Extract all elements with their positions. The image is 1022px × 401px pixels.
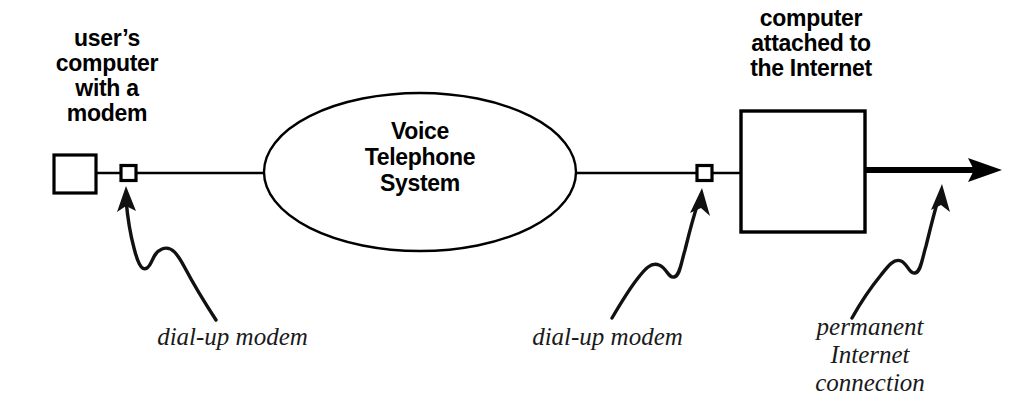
diagram-canvas: user’s computer with a modem Voice Telep… <box>0 0 1022 401</box>
squiggly-arrow-head-middle-icon <box>690 188 710 216</box>
callout-label-left-modem: dial-up modem <box>140 323 325 351</box>
callout-label-right-modem: dial-up modem <box>515 323 700 351</box>
user-computer-box-icon <box>54 155 96 193</box>
user-computer-caption: user’s computer with a modem <box>27 26 187 126</box>
callout-arrow-right-modem <box>612 203 698 318</box>
internet-computer-box-icon <box>741 111 865 232</box>
internet-computer-caption: computer attached to the Internet <box>711 6 911 81</box>
squiggly-arrow-head-right-icon <box>931 184 950 212</box>
voice-telephone-system-caption: Voice Telephone System <box>300 118 540 196</box>
callout-arrow-left-modem <box>126 200 216 320</box>
right-modem-square-icon <box>697 166 712 181</box>
callout-label-permanent-connection: permanent Internet connection <box>775 313 965 397</box>
left-modem-square-icon <box>121 166 136 181</box>
